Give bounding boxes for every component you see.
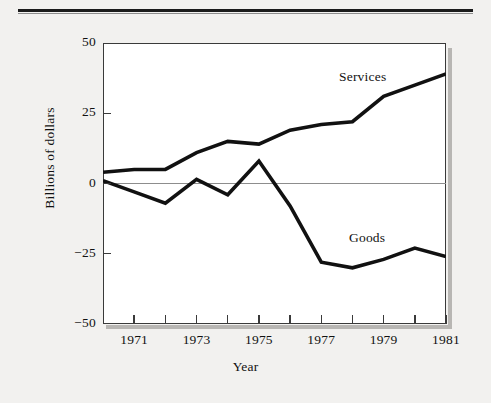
- plot-shadow-right: [448, 48, 452, 329]
- x-tick-mark: [133, 315, 134, 324]
- x-tick-label: 1971: [120, 332, 148, 348]
- y-tick-mark: [103, 183, 111, 184]
- x-axis-title: Year: [18, 359, 473, 375]
- x-tick-label: 1975: [245, 332, 273, 348]
- x-tick-mark: [258, 315, 259, 324]
- chart-figure: 50250−25−50 197119731975197719791981 Bil…: [18, 22, 473, 382]
- y-tick-label: −25: [44, 245, 96, 261]
- series-label-services: Services: [339, 69, 386, 85]
- x-tick-mark: [165, 315, 166, 324]
- x-tick-mark: [445, 315, 446, 324]
- x-tick-label: 1977: [307, 332, 335, 348]
- x-tick-mark: [289, 315, 290, 324]
- series-label-goods: Goods: [349, 230, 385, 246]
- x-tick-label: 1973: [183, 332, 211, 348]
- series-line-goods: [103, 161, 446, 268]
- y-tick-label: 50: [44, 34, 96, 50]
- top-rule-thick: [18, 9, 473, 12]
- x-tick-mark: [321, 315, 322, 324]
- x-tick-mark: [227, 315, 228, 324]
- y-tick-label: −50: [44, 315, 96, 331]
- y-axis-title: Billions of dollars: [42, 78, 58, 238]
- x-tick-mark: [352, 315, 353, 324]
- x-tick-mark: [196, 315, 197, 324]
- y-tick-mark: [103, 253, 111, 254]
- x-tick-label: 1981: [432, 332, 460, 348]
- x-tick-mark: [414, 315, 415, 324]
- top-rule-thin: [18, 13, 473, 14]
- series-line-services: [103, 74, 446, 172]
- plot-shadow-bottom: [106, 325, 452, 329]
- plot-canvas: [103, 43, 446, 324]
- figure-page: 50250−25−50 197119731975197719791981 Bil…: [0, 0, 491, 403]
- x-tick-label: 1979: [370, 332, 398, 348]
- y-tick-mark: [103, 113, 111, 114]
- x-tick-mark: [383, 315, 384, 324]
